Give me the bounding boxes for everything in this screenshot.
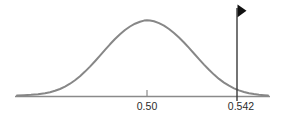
normal-distribution-figure: 0.50 0.542 (0, 0, 285, 125)
x-tick-label-mean: 0.50 (124, 100, 170, 112)
flag-triangle-icon (238, 5, 247, 18)
bell-curve-path (17, 20, 268, 95)
x-tick-label-critical-value: 0.542 (214, 100, 268, 112)
